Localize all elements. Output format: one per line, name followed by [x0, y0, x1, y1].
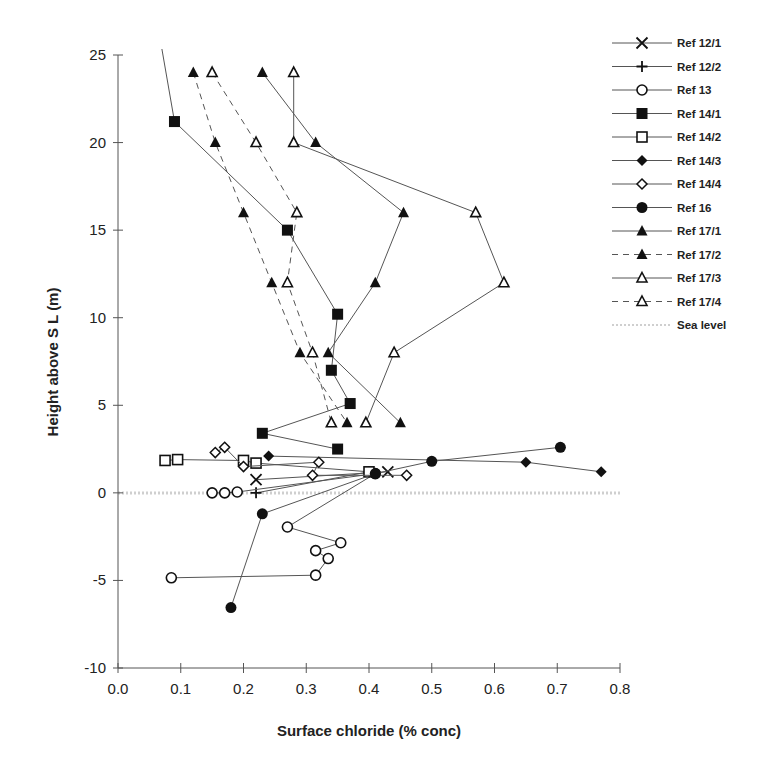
legend-label: Ref 14/4	[677, 178, 722, 190]
y-tick-label: -10	[84, 659, 106, 676]
legend-item: Ref 13	[612, 84, 712, 96]
y-tick-label: 5	[98, 396, 106, 413]
legend-label: Ref 17/1	[677, 225, 722, 237]
legend-item: Ref 14/1	[612, 108, 722, 120]
x-tick-label: 0.8	[610, 680, 631, 697]
y-tick-label: -5	[93, 571, 106, 588]
x-axis-title: Surface chloride (% conc)	[277, 722, 461, 739]
legend-label: Ref 14/2	[677, 131, 721, 143]
legend-item: Ref 14/3	[612, 155, 721, 167]
legend-label: Ref 17/3	[677, 272, 721, 284]
legend-label: Ref 14/1	[677, 108, 722, 120]
x-tick-label: 0.1	[170, 680, 191, 697]
y-tick-label: 10	[89, 309, 106, 326]
axes: 0.00.10.20.30.40.50.60.70.8-10-505101520…	[84, 46, 630, 697]
legend-label: Ref 16	[677, 202, 712, 214]
series-ref-16	[225, 442, 565, 613]
x-tick-label: 0.3	[296, 680, 317, 697]
y-axis-title: Height above S L (m)	[44, 288, 61, 437]
chloride-height-chart: 0.00.10.20.30.40.50.60.70.8-10-505101520…	[0, 0, 757, 769]
legend-item: Ref 12/2	[612, 61, 721, 73]
y-tick-label: 15	[89, 221, 106, 238]
series-ref-17-4	[207, 67, 336, 427]
y-tick-label: 25	[89, 46, 106, 63]
x-tick-label: 0.6	[484, 680, 505, 697]
legend-item: Ref 17/1	[612, 225, 722, 237]
legend-item: Ref 12/1	[612, 37, 722, 49]
x-tick-label: 0.0	[108, 680, 129, 697]
legend: Ref 12/1Ref 12/2Ref 13Ref 14/1Ref 14/2Re…	[612, 37, 726, 331]
x-tick-label: 0.2	[233, 680, 254, 697]
legend-item: Ref 16	[612, 202, 712, 214]
legend-item: Sea level	[612, 319, 726, 331]
legend-label: Ref 17/2	[677, 249, 721, 261]
legend-item: Ref 17/2	[612, 249, 721, 261]
x-tick-label: 0.5	[421, 680, 442, 697]
legend-item: Ref 14/2	[612, 131, 721, 143]
legend-label: Ref 12/1	[677, 37, 722, 49]
plot-area	[118, 49, 620, 613]
legend-label: Ref 17/4	[677, 296, 722, 308]
legend-item: Ref 17/3	[612, 272, 721, 284]
x-tick-label: 0.4	[359, 680, 380, 697]
legend-item: Ref 14/4	[612, 178, 722, 190]
series-ref-17-3	[289, 67, 509, 427]
legend-label: Ref 12/2	[677, 61, 721, 73]
y-tick-label: 20	[89, 134, 106, 151]
y-tick-label: 0	[98, 484, 106, 501]
series-ref-13	[166, 469, 380, 583]
legend-label: Sea level	[677, 319, 726, 331]
legend-label: Ref 13	[677, 84, 712, 96]
x-tick-label: 0.7	[547, 680, 568, 697]
legend-label: Ref 14/3	[677, 155, 721, 167]
legend-item: Ref 17/4	[612, 296, 722, 308]
